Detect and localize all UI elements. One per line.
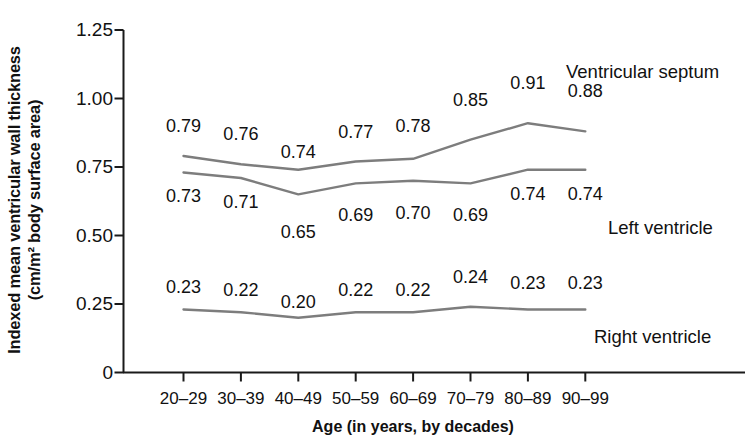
- data-point-label: 0.74: [568, 185, 603, 203]
- data-point-label: 0.88: [568, 82, 603, 100]
- data-point-label: 0.73: [166, 187, 201, 205]
- data-point-label: 0.69: [453, 206, 488, 224]
- data-point-label: 0.22: [396, 281, 431, 299]
- data-point-label: 0.23: [510, 274, 545, 292]
- data-point-label: 0.91: [510, 74, 545, 92]
- data-point-label: 0.79: [166, 117, 201, 135]
- data-point-label: 0.22: [338, 281, 373, 299]
- data-point-label: 0.22: [223, 281, 258, 299]
- data-point-label: 0.74: [510, 185, 545, 203]
- data-point-label: 0.24: [453, 268, 488, 286]
- data-point-label: 0.78: [396, 117, 431, 135]
- x-tick-label: 90–99: [542, 389, 628, 409]
- series-label: Right ventricle: [594, 327, 711, 346]
- y-tick-marks: [115, 30, 124, 373]
- data-point-label: 0.71: [223, 193, 258, 211]
- data-point-label: 0.76: [223, 125, 258, 143]
- data-point-label: 0.23: [166, 278, 201, 296]
- data-point-label: 0.69: [338, 206, 373, 224]
- data-point-label: 0.23: [568, 274, 603, 292]
- data-point-label: 0.77: [338, 123, 373, 141]
- data-point-label: 0.65: [281, 223, 316, 241]
- data-point-label: 0.74: [281, 143, 316, 161]
- series-label: Left ventricle: [608, 218, 713, 237]
- series-label: Ventricular septum: [566, 62, 719, 81]
- series-line: [184, 307, 586, 318]
- chart-figure: Indexed mean ventricular wall thickness …: [0, 0, 755, 444]
- data-point-label: 0.20: [281, 293, 316, 311]
- data-point-label: 0.70: [396, 204, 431, 222]
- x-axis-title: Age (in years, by decades): [123, 418, 703, 436]
- x-tick-marks: [184, 373, 586, 382]
- data-point-label: 0.85: [453, 91, 488, 109]
